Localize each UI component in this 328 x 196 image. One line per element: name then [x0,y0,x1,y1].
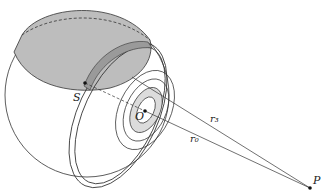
label-r0: r₀ [190,133,199,144]
sphere-diagram: S O P r₃ r₀ [0,0,328,196]
line-r3 [132,77,310,188]
point-p [308,186,312,190]
label-s: S [73,91,81,104]
label-p: P [312,174,321,187]
label-o: O [135,110,144,123]
line-r0 [145,111,310,188]
point-s [83,81,87,85]
label-r3: r₃ [210,113,219,124]
